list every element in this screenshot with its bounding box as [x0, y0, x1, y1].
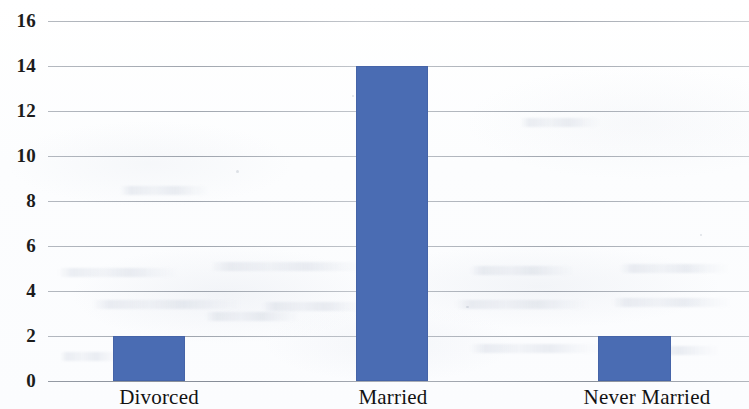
- gridline-16: [48, 21, 749, 22]
- axis-baseline-0: [48, 381, 749, 382]
- y-axis-tick-label: 14: [0, 55, 36, 77]
- y-axis-tick-label: 4: [0, 280, 36, 302]
- y-axis-tick-label: 6: [0, 235, 36, 257]
- x-axis-label-divorced: Divorced: [79, 385, 239, 409]
- y-axis-tick-label: 12: [0, 100, 36, 122]
- y-axis-tick-label: 0: [0, 370, 36, 392]
- x-axis-label-married: Married: [313, 385, 473, 409]
- x-axis-label-never-married: Never Married: [545, 385, 749, 409]
- y-axis-tick-label: 10: [0, 145, 36, 167]
- y-axis-tick-label: 2: [0, 325, 36, 347]
- y-axis-tick-label: 16: [0, 10, 36, 32]
- y-axis-tick-label: 8: [0, 190, 36, 212]
- bar-married[interactable]: [356, 66, 428, 381]
- plot-area: 16 14 12 10 8 6 4 2 0 Divorced Married N…: [0, 0, 749, 409]
- bar-divorced[interactable]: [113, 336, 185, 381]
- bar-chart-figure: 16 14 12 10 8 6 4 2 0 Divorced Married N…: [0, 0, 749, 409]
- bar-never-married[interactable]: [598, 336, 671, 381]
